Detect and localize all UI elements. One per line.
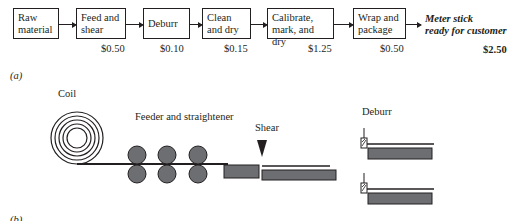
shear-blade-icon [257,140,267,157]
coil-icon [51,112,103,164]
deburr-tool-icon [361,173,367,193]
deburr-bar-2 [368,193,432,204]
part-label-b: (b) [10,214,22,221]
cut-bar [262,170,336,180]
deburr-tool-icon [361,128,367,148]
bar-before-shear [224,165,259,178]
process-illustration [0,0,511,221]
deburr-bar-1 [368,148,432,159]
